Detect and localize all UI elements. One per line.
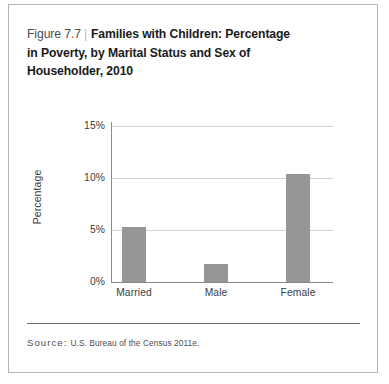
source-note: Source:U.S. Bureau of the Census 2011e. (27, 332, 199, 350)
gridline-15 (111, 126, 333, 127)
x-tick-label-male: Male (176, 287, 256, 298)
y-axis-title: Percentage (31, 137, 43, 257)
source-text: U.S. Bureau of the Census 2011e. (67, 338, 199, 348)
x-tick-label-female: Female (258, 287, 338, 298)
y-axis-line (111, 122, 112, 282)
figure-card: Figure 7.7|Families with Children: Perce… (8, 4, 378, 373)
source-divider (27, 323, 360, 324)
x-tick-label-married: Married (94, 287, 174, 298)
bar-married (122, 227, 146, 282)
x-axis-line (111, 282, 333, 283)
y-tick-label-10: 10% (69, 172, 105, 183)
bar-female (286, 174, 310, 282)
y-tick-label-15: 15% (69, 120, 105, 131)
bar-male (204, 264, 228, 282)
y-tick-label-0: 0% (69, 276, 105, 287)
source-label: Source: (27, 337, 67, 348)
bar-chart: Percentage 15% 10% 5% 0% Married Male Fe… (9, 5, 379, 374)
y-tick-label-5: 5% (69, 224, 105, 235)
